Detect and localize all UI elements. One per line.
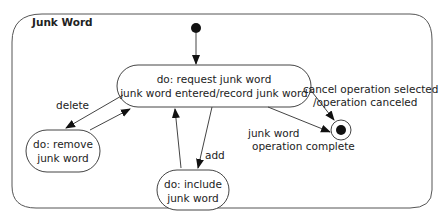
initial-state-dot [191,23,201,33]
transition-include-to-request [175,109,181,168]
composite-state-title: Junk Word [32,16,93,29]
transition-label-complete-line1: junk word [248,127,355,140]
transition-label-complete-line2: operation complete [248,140,355,153]
state-request-line2: junk word entered/record junk word [117,86,311,100]
state-remove-text: do: remove junk word [26,137,100,165]
state-remove-line2: junk word [26,151,100,165]
state-include-text: do: include junk word [157,177,229,205]
state-request-line1: do: request junk word [117,72,311,86]
state-include-line1: do: include [157,177,229,191]
transition-label-cancel: cancel operation selected /operation can… [303,83,438,109]
transition-label-cancel-line1: cancel operation selected [303,83,438,96]
state-request-text: do: request junk word junk word entered/… [117,72,311,100]
state-include-line2: junk word [157,191,229,205]
transition-label-cancel-line2: /operation canceled [303,96,438,109]
transition-label-add: add [205,149,225,162]
state-remove-line1: do: remove [26,137,100,151]
transition-label-complete: junk word operation complete [248,127,355,153]
transition-remove-to-request [90,109,130,130]
transition-label-delete: delete [56,99,89,112]
